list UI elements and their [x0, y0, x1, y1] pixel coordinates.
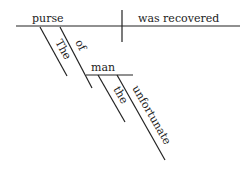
predicate-word: was recovered: [138, 12, 219, 25]
object-word: man: [91, 61, 115, 74]
preposition-word: of: [72, 37, 89, 53]
article-word: The: [52, 37, 74, 62]
subject-word: purse: [32, 12, 64, 25]
sentence-diagram: purse was recovered The of man the unfor…: [0, 0, 249, 172]
